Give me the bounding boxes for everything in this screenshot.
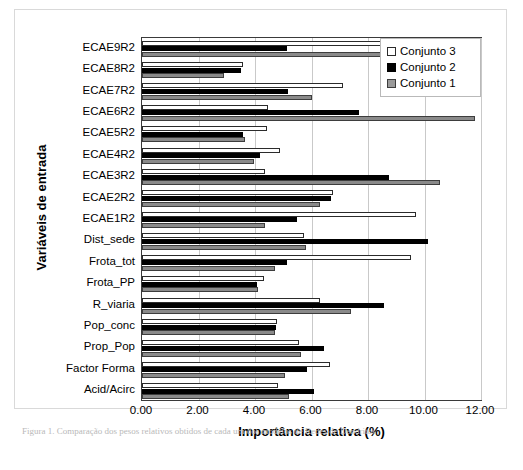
bar-conjunto-1 [142,202,320,207]
bar-conjunto-3 [142,190,333,195]
bar-conjunto-2 [142,68,241,73]
bar-conjunto-3 [142,340,299,345]
bar-conjunto-3 [142,255,411,260]
y-tick-label: Acid/Acirc [15,384,135,396]
x-tick-label: 0.00 [130,404,152,416]
bar-conjunto-1 [142,223,265,228]
bar-conjunto-2 [142,303,384,308]
x-tick-label: 2.00 [186,404,208,416]
bar-group [142,252,481,273]
bar-group [142,145,481,166]
x-tick-label: 8.00 [356,404,378,416]
figure-caption: Figura 1. Comparação dos pesos relativos… [22,425,502,437]
bar-group [142,338,481,359]
bar-conjunto-2 [142,46,287,51]
legend-label: Conjunto 2 [400,61,456,73]
y-tick-label: ECAE7R2 [15,85,135,97]
bar-conjunto-2 [142,132,243,137]
bar-conjunto-1 [142,73,224,78]
y-tick-label: Prop_Pop [15,341,135,353]
x-tick-label: 10.00 [409,404,438,416]
bar-conjunto-2 [142,89,288,94]
bar-group [142,166,481,187]
bar-conjunto-3 [142,212,416,217]
x-tick-label: 12.00 [466,404,495,416]
bar-conjunto-2 [142,325,276,330]
bar-conjunto-1 [142,52,387,57]
bar-conjunto-3 [142,62,243,67]
bar-conjunto-1 [142,116,475,121]
x-tick-label: 4.00 [243,404,265,416]
bar-group [142,274,481,295]
gridline [481,38,482,400]
bar-group [142,359,481,380]
y-tick-label: Factor Forma [15,363,135,375]
y-tick-label: ECAE8R2 [15,63,135,75]
legend-swatch-icon [387,79,396,88]
bar-conjunto-3 [142,41,381,46]
bar-conjunto-3 [142,83,343,88]
bar-conjunto-1 [142,309,351,314]
bar-conjunto-3 [142,276,264,281]
x-tick-label: 6.00 [299,404,321,416]
bar-conjunto-1 [142,137,245,142]
bar-conjunto-3 [142,105,268,110]
bar-conjunto-1 [142,159,254,164]
bar-conjunto-2 [142,110,359,115]
chart-screenshot: Variáveis de entrada ECAE9R2ECAE8R2ECAE7… [0,0,523,470]
bar-group [142,188,481,209]
bar-conjunto-2 [142,260,287,265]
bar-conjunto-3 [142,126,267,131]
bar-conjunto-1 [142,180,440,185]
legend-swatch-icon [387,63,396,72]
legend-swatch-icon [387,47,396,56]
bar-conjunto-2 [142,282,257,287]
bar-conjunto-1 [142,245,306,250]
bar-group [142,295,481,316]
bar-conjunto-1 [142,330,275,335]
bar-conjunto-3 [142,319,277,324]
bar-conjunto-2 [142,239,428,244]
bar-conjunto-2 [142,196,331,201]
bar-group [142,316,481,337]
legend-item: Conjunto 2 [387,59,475,75]
bar-conjunto-1 [142,352,301,357]
bar-conjunto-1 [142,95,312,100]
bar-conjunto-3 [142,362,330,367]
legend-item: Conjunto 1 [387,75,475,91]
bar-group [142,381,481,402]
bar-conjunto-1 [142,394,289,399]
bar-conjunto-3 [142,383,278,388]
x-axis-tick-labels: 0.002.004.006.008.0010.0012.00 [141,404,482,420]
bar-conjunto-2 [142,153,260,158]
legend: Conjunto 3Conjunto 2Conjunto 1 [380,38,481,97]
bar-conjunto-3 [142,169,265,174]
y-axis-title: Variáveis de entrada [34,98,49,318]
bar-conjunto-1 [142,266,275,271]
bar-conjunto-3 [142,148,280,153]
bar-group [142,231,481,252]
bar-conjunto-1 [142,287,258,292]
legend-label: Conjunto 3 [400,45,456,57]
bar-conjunto-3 [142,233,304,238]
figure-frame: Variáveis de entrada ECAE9R2ECAE8R2ECAE7… [14,9,507,409]
bar-group [142,102,481,123]
bar-conjunto-2 [142,346,324,351]
bar-group [142,124,481,145]
bar-conjunto-2 [142,389,314,394]
bar-conjunto-2 [142,175,389,180]
bar-conjunto-2 [142,217,297,222]
bar-conjunto-2 [142,367,307,372]
y-tick-label: ECAE9R2 [15,42,135,54]
bar-conjunto-3 [142,298,320,303]
legend-item: Conjunto 3 [387,43,475,59]
y-tick-label: Pop_conc [15,320,135,332]
bar-conjunto-1 [142,373,285,378]
legend-label: Conjunto 1 [400,77,456,89]
bar-group [142,209,481,230]
